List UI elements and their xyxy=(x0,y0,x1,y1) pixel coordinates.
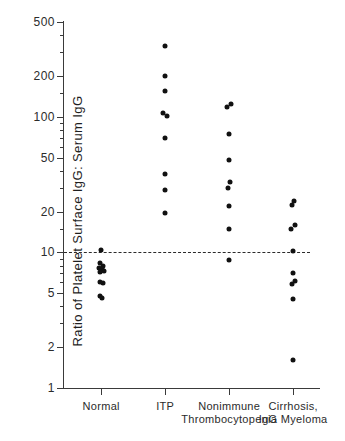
data-point xyxy=(291,248,296,253)
y-tick-minor-300 xyxy=(60,52,64,53)
x-axis-label-itp: ITP xyxy=(156,400,174,413)
chart-figure: Ratio of Platelet Surface IgG: Serum IgG… xyxy=(0,0,345,441)
data-point xyxy=(290,282,295,287)
y-tick-minor-7 xyxy=(60,273,64,274)
reference-line-10 xyxy=(64,252,310,253)
y-tick-2 xyxy=(57,347,64,348)
y-tick-minor-70 xyxy=(60,138,64,139)
y-tick-label-2: 2 xyxy=(48,341,55,353)
data-point xyxy=(98,269,103,274)
y-tick-100 xyxy=(57,117,64,118)
x-label-line: Cirrhosis, xyxy=(259,400,328,413)
x-tick-itp xyxy=(165,389,166,395)
data-point xyxy=(99,247,104,252)
data-point xyxy=(225,105,230,110)
data-point xyxy=(291,271,296,276)
data-point xyxy=(163,187,168,192)
x-label-line: Normal xyxy=(83,400,120,413)
data-point xyxy=(290,202,295,207)
y-tick-minor-6 xyxy=(60,282,64,283)
data-point xyxy=(289,226,294,231)
data-point xyxy=(227,131,232,136)
y-tick-minor-400 xyxy=(60,35,64,36)
y-tick-label-500: 500 xyxy=(33,16,55,28)
data-point xyxy=(227,158,232,163)
y-tick-500 xyxy=(57,22,64,23)
y-tick-label-5: 5 xyxy=(48,287,55,299)
data-point xyxy=(163,88,168,93)
x-tick-cirrhosis-igg-myeloma xyxy=(293,389,294,395)
y-tick-minor-15 xyxy=(60,229,64,230)
data-point xyxy=(227,226,232,231)
data-point xyxy=(163,171,168,176)
data-point xyxy=(100,296,105,301)
y-tick-label-200: 200 xyxy=(33,70,55,82)
y-tick-minor-3 xyxy=(60,323,64,324)
x-axis-label-cirrhosis-igg-myeloma: Cirrhosis,IgG Myeloma xyxy=(259,400,328,426)
y-tick-minor-90 xyxy=(60,123,64,124)
data-point xyxy=(163,135,168,140)
data-point xyxy=(227,203,232,208)
data-point xyxy=(163,73,168,78)
y-tick-minor-60 xyxy=(60,147,64,148)
y-tick-minor-40 xyxy=(60,171,64,172)
data-point xyxy=(227,257,232,262)
data-point xyxy=(228,180,233,185)
x-tick-nonimmune-thrombocytopenia xyxy=(229,389,230,395)
data-point xyxy=(101,281,106,286)
x-label-line: IgG Myeloma xyxy=(259,413,328,426)
y-tick-minor-150 xyxy=(60,93,64,94)
x-label-line: ITP xyxy=(156,400,174,413)
y-tick-minor-8 xyxy=(60,266,64,267)
y-tick-50 xyxy=(57,158,64,159)
y-tick-minor-9 xyxy=(60,259,64,260)
y-tick-1 xyxy=(57,388,64,389)
y-tick-5 xyxy=(57,293,64,294)
y-tick-minor-80 xyxy=(60,130,64,131)
data-point xyxy=(291,297,296,302)
x-axis-label-normal: Normal xyxy=(83,400,120,413)
y-tick-200 xyxy=(57,76,64,77)
y-tick-label-1: 1 xyxy=(48,382,55,394)
y-tick-label-100: 100 xyxy=(33,111,55,123)
data-point xyxy=(226,185,231,190)
y-tick-minor-30 xyxy=(60,188,64,189)
x-tick-normal xyxy=(101,389,102,395)
y-tick-label-20: 20 xyxy=(41,206,55,218)
data-point xyxy=(291,358,296,363)
y-tick-minor-4 xyxy=(60,306,64,307)
data-point xyxy=(163,44,168,49)
plot-area: 125102050100200500 xyxy=(64,22,320,388)
y-tick-label-10: 10 xyxy=(41,246,55,258)
y-tick-20 xyxy=(57,212,64,213)
y-tick-10 xyxy=(57,252,64,253)
y-tick-label-50: 50 xyxy=(41,152,55,164)
data-point xyxy=(165,113,170,118)
data-point xyxy=(163,211,168,216)
